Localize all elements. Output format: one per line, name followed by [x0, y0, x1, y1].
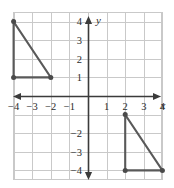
vertex-point — [11, 19, 16, 24]
y-tick-label: 1 — [77, 72, 82, 83]
x-tick-label: −1 — [64, 101, 75, 112]
vertex-point — [11, 75, 16, 80]
y-tick-label: −4 — [71, 165, 83, 176]
vertex-point — [123, 168, 128, 173]
x-tick-label: 3 — [141, 101, 146, 112]
x-tick-label: 1 — [104, 101, 109, 112]
y-tick-label: 2 — [77, 54, 82, 65]
y-tick-label: 4 — [77, 16, 83, 27]
x-axis-name: x — [160, 99, 166, 111]
y-axis-name: y — [95, 14, 101, 26]
x-tick-label: 2 — [123, 101, 128, 112]
y-tick-label: −2 — [71, 128, 82, 139]
vertex-point — [160, 168, 165, 173]
x-tick-label: −2 — [45, 101, 56, 112]
y-tick-label: −3 — [71, 147, 82, 158]
y-axis-arrow-up — [85, 16, 92, 24]
triangle-lower-right — [125, 115, 162, 171]
x-tick-label: −4 — [8, 101, 20, 112]
plot-svg: −4−3−2−112344321−2−3−4 xy — [0, 0, 174, 188]
vertex-point — [48, 75, 53, 80]
vertex-point — [123, 112, 128, 117]
coordinate-plane-figure: −4−3−2−112344321−2−3−4 xy — [0, 0, 174, 188]
x-tick-label: −3 — [27, 101, 38, 112]
y-tick-label: 3 — [77, 35, 82, 46]
